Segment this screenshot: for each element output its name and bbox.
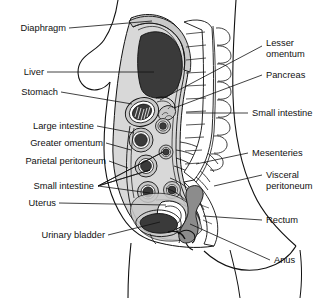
label-anus: Anus [274,255,296,265]
label-lesser-omentum-line1: Lesser [266,38,294,48]
label-lesser-omentum-line2: omentum [266,49,305,59]
label-mesenteries: Mesenteries [252,148,303,158]
liver-group [138,32,183,98]
label-diaphragm: Diaphragm [21,23,67,33]
label-parietal-peritoneum: Parietal peritoneum [25,156,106,166]
large-intestine-lumen [135,134,148,147]
label-rectum: Rectum [266,215,298,225]
label-greater-omentum: Greater omentum [30,138,103,148]
anatomy-svg: Diaphragm Liver Stomach Large intestine … [0,0,314,298]
label-large-intestine: Large intestine [33,121,94,131]
label-pancreas: Pancreas [266,70,306,80]
label-uterus: Uterus [29,198,57,208]
small-intestine-loop-1 [156,119,171,134]
urinary-bladder-path [140,214,177,234]
diagram-canvas: Diaphragm Liver Stomach Large intestine … [0,0,314,298]
label-urinary-bladder: Urinary bladder [41,230,105,240]
label-small-intestine-left: Small intestine [34,181,94,191]
liver-path [138,32,183,98]
label-visceral-peritoneum-line1: Visceral [266,170,299,180]
small-intestine-loop-5 [159,145,173,159]
label-visceral-peritoneum-line2: peritoneum [266,181,313,191]
label-small-intestine-right: Small intestine [252,108,312,118]
label-stomach: Stomach [21,87,58,97]
label-liver: Liver [24,67,44,77]
